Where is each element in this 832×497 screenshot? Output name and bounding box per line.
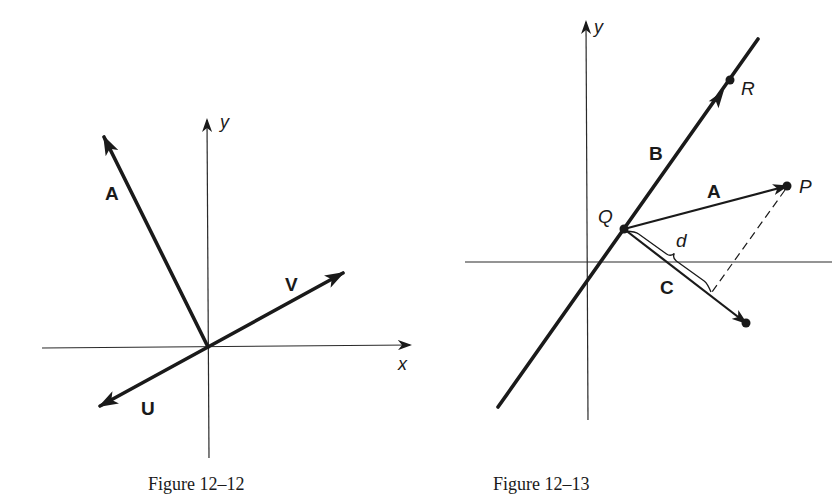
figure-caption: Figure 12–12 (148, 474, 245, 494)
vector-u-label: U (141, 398, 155, 419)
point-r (726, 76, 735, 85)
perpendicular-dashed-line (712, 190, 785, 292)
point-p (783, 182, 792, 191)
point-p-label: P (799, 176, 812, 197)
point-c-end (742, 319, 751, 328)
y-axis-label: y (592, 17, 604, 37)
x-axis (42, 345, 410, 348)
vector-a-label: A (105, 183, 119, 204)
figure-caption: Figure 12–13 (493, 474, 590, 494)
vector-v-label: V (285, 274, 298, 295)
vector-a-label: A (707, 181, 721, 202)
y-axis (586, 22, 588, 420)
y-axis (207, 120, 209, 458)
vector-a-arrow (104, 137, 208, 347)
vector-c-label: C (660, 277, 674, 298)
y-axis-label: y (218, 112, 230, 132)
figure-canvas: y x A V U Figure 12–12 y B d A C Q R P F… (0, 0, 832, 497)
vector-v-arrow (208, 273, 343, 347)
point-q (620, 225, 629, 234)
point-r-label: R (741, 78, 755, 99)
figure-12-13: y B d A C Q R P Figure 12–13 (465, 17, 832, 494)
point-q-label: Q (598, 206, 613, 227)
x-axis-label: x (397, 354, 408, 374)
figure-12-12: y x A V U Figure 12–12 (42, 112, 410, 494)
distance-d-label: d (676, 230, 688, 251)
vector-b-label: B (649, 143, 663, 164)
